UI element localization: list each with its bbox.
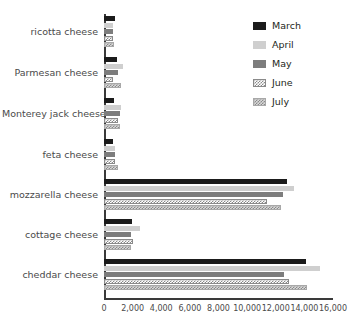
bar-group: cheddar cheese <box>104 259 333 290</box>
category-label: Monterey jack cheese <box>2 109 98 119</box>
bar <box>104 83 121 88</box>
legend-item[interactable]: July <box>253 92 349 111</box>
bar <box>104 57 117 62</box>
bar <box>104 272 284 277</box>
bar <box>104 77 113 82</box>
x-axis-line <box>104 298 333 300</box>
bar <box>104 70 118 75</box>
x-tick-label: 12,000 <box>262 305 290 313</box>
legend-item[interactable]: May <box>253 54 349 73</box>
legend-item-label: June <box>272 78 293 88</box>
bar <box>104 124 120 129</box>
x-tick-label: 6,000 <box>178 305 201 313</box>
category-label: Parmesan cheese <box>2 68 98 78</box>
legend-swatch-icon <box>253 22 266 30</box>
bar <box>104 118 118 123</box>
bar <box>104 205 281 210</box>
bar-group: cottage cheese <box>104 219 333 250</box>
category-label: cottage cheese <box>2 230 98 240</box>
legend-swatch-icon <box>253 60 266 68</box>
legend-item-label: March <box>272 21 301 31</box>
chart-legend: MarchAprilMayJuneJuly <box>253 16 349 111</box>
bar <box>104 42 114 47</box>
bar <box>104 239 133 244</box>
x-tick-label: 2,000 <box>121 305 144 313</box>
bar <box>104 219 132 224</box>
legend-swatch-icon <box>253 79 266 87</box>
category-label: mozzarella cheese <box>2 190 98 200</box>
bar <box>104 266 320 271</box>
bar <box>104 232 131 237</box>
bar <box>104 179 287 184</box>
category-label: feta cheese <box>2 150 98 160</box>
bar <box>104 192 283 197</box>
bar <box>104 23 113 28</box>
bar <box>104 16 115 21</box>
bar <box>104 285 307 290</box>
bar <box>104 64 123 69</box>
category-label: cheddar cheese <box>2 270 98 280</box>
bar-group: mozzarella cheese <box>104 179 333 210</box>
x-tick-label: 0 <box>101 305 106 313</box>
legend-item[interactable]: March <box>253 16 349 35</box>
bar <box>104 29 113 34</box>
bar <box>104 259 306 264</box>
x-tick-label: 8,000 <box>207 305 230 313</box>
x-tick-label: 14,000 <box>290 305 318 313</box>
category-label: ricotta cheese <box>2 27 98 37</box>
legend-item[interactable]: June <box>253 73 349 92</box>
legend-item-label: May <box>272 59 292 69</box>
legend-item-label: July <box>272 97 289 107</box>
bar <box>104 279 289 284</box>
bar <box>104 199 267 204</box>
bar-chart: ricotta cheeseParmesan cheeseMonterey ja… <box>0 0 351 326</box>
x-tick-label: 4,000 <box>150 305 173 313</box>
legend-swatch-icon <box>253 41 266 49</box>
bar <box>104 245 131 250</box>
legend-item-label: April <box>272 40 294 50</box>
bar <box>104 159 115 164</box>
bar <box>104 111 120 116</box>
legend-item[interactable]: April <box>253 35 349 54</box>
bar <box>104 139 113 144</box>
x-tick-label: 10,000 <box>233 305 261 313</box>
bar <box>104 105 121 110</box>
bar <box>104 36 113 41</box>
bar <box>104 152 115 157</box>
x-tick-label: 16,000 <box>319 305 347 313</box>
bar <box>104 226 140 231</box>
bar <box>104 146 115 151</box>
bar <box>104 186 294 191</box>
bar <box>104 165 118 170</box>
bar <box>104 98 114 103</box>
legend-swatch-icon <box>253 98 266 106</box>
bar-group: feta cheese <box>104 139 333 170</box>
